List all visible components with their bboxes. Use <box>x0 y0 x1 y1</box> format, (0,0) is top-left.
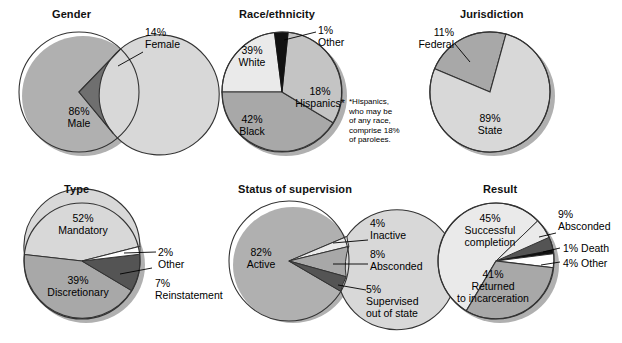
label-type-mandatory: 52% Mandatory <box>38 212 128 236</box>
label-type-discretionary-name: Discretionary <box>28 286 128 298</box>
label-result-absconded-pct: 9% <box>558 208 611 220</box>
label-gender-female-name: Female <box>145 38 180 50</box>
label-type-other: 2% Other <box>158 246 184 270</box>
label-jurisdiction-federal-name: Federal <box>398 38 454 50</box>
label-status-active-name: Active <box>225 258 297 270</box>
label-status-oos-pct: 5% <box>366 283 419 295</box>
label-jurisdiction-federal: 11% Federal <box>398 26 454 50</box>
pie-type <box>24 189 156 323</box>
label-race-hispanics: 18% Hispanics* <box>283 85 357 109</box>
label-type-discretionary: 39% Discretionary <box>28 274 128 298</box>
label-gender-female: 14% Female <box>145 26 180 50</box>
label-type-other-pct: 2% <box>158 246 184 258</box>
label-result-absconded: 9% Absconded <box>558 208 611 232</box>
label-status-active-pct: 82% <box>225 246 297 258</box>
label-status-inactive-name: Inactive <box>370 229 406 241</box>
label-gender-male-name: Male <box>36 117 122 129</box>
label-status-inactive: 4% Inactive <box>370 217 406 241</box>
footnote-line-1: *Hispanics, <box>349 97 400 107</box>
chart-title-status-of-supervision: Status of supervision <box>238 183 352 195</box>
footnote-line-2: who may be <box>349 107 400 117</box>
label-type-mandatory-pct: 52% <box>38 212 128 224</box>
footnote-line-4: comprise 18% <box>349 126 400 136</box>
label-race-hispanics-name: Hispanics* <box>283 97 357 109</box>
label-race-black: 42% Black <box>222 113 282 137</box>
label-jurisdiction-state-pct: 89% <box>453 112 527 124</box>
label-type-discretionary-pct: 39% <box>28 274 128 286</box>
label-status-active: 82% Active <box>225 246 297 270</box>
chart-title-jurisdiction: Jurisdiction <box>460 8 524 20</box>
label-result-successful-completion: 45% Successful completion <box>444 212 536 249</box>
label-result-returned-name-2: to incarceration <box>437 292 549 304</box>
pie-chart-figure: Gender 86% Male 14% Female Race/ethnicit… <box>0 0 622 343</box>
label-race-black-name: Black <box>222 125 282 137</box>
label-result-death: 1% Death <box>563 242 609 254</box>
label-result-successful-pct: 45% <box>444 212 536 224</box>
label-jurisdiction-federal-pct: 11% <box>398 26 454 38</box>
label-type-reinstatement-name: Reinstatement <box>155 289 223 301</box>
label-status-supervised-out-of-state: 5% Supervised out of state <box>366 283 419 320</box>
label-race-other: 1% Other <box>318 24 344 48</box>
label-jurisdiction-state: 89% State <box>453 112 527 136</box>
label-race-white-pct: 39% <box>222 44 282 56</box>
label-result-returned-name-1: Returned <box>437 280 549 292</box>
pie-jurisdiction <box>430 32 555 156</box>
label-race-white: 39% White <box>222 44 282 68</box>
label-type-other-name: Other <box>158 258 184 270</box>
label-result-returned: 41% Returned to incarceration <box>437 268 549 305</box>
label-result-successful-name-2: completion <box>444 236 536 248</box>
label-race-other-name: Other <box>318 36 344 48</box>
label-race-white-name: White <box>222 56 282 68</box>
label-race-hispanics-pct: 18% <box>283 85 357 97</box>
label-status-absconded-pct: 8% <box>370 248 423 260</box>
label-race-other-pct: 1% <box>318 24 344 36</box>
label-status-absconded-name: Absconded <box>370 260 423 272</box>
label-result-absconded-name: Absconded <box>558 220 611 232</box>
footnote-hispanics: *Hispanics, who may be of any race, comp… <box>349 97 400 145</box>
footnote-line-3: of any race, <box>349 116 400 126</box>
label-status-oos-name-2: out of state <box>366 307 419 319</box>
label-type-reinstatement: 7% Reinstatement <box>155 277 223 301</box>
chart-title-result: Result <box>483 183 517 195</box>
label-race-black-pct: 42% <box>222 113 282 125</box>
chart-title-gender: Gender <box>52 8 91 20</box>
label-status-inactive-pct: 4% <box>370 217 406 229</box>
label-gender-male-pct: 86% <box>36 105 122 117</box>
label-gender-male: 86% Male <box>36 105 122 129</box>
pie-gender <box>19 32 219 156</box>
label-type-reinstatement-pct: 7% <box>155 277 223 289</box>
label-gender-female-pct: 14% <box>145 26 180 38</box>
label-status-oos-name-1: Supervised <box>366 295 419 307</box>
footnote-line-5: of parolees. <box>349 135 400 145</box>
chart-title-race-ethnicity: Race/ethnicity <box>239 8 315 20</box>
label-result-other: 4% Other <box>563 257 607 269</box>
label-type-mandatory-name: Mandatory <box>38 224 128 236</box>
label-status-absconded: 8% Absconded <box>370 248 423 272</box>
label-jurisdiction-state-name: State <box>453 124 527 136</box>
label-result-returned-pct: 41% <box>437 268 549 280</box>
chart-title-type: Type <box>64 183 89 195</box>
label-result-successful-name-1: Successful <box>444 224 536 236</box>
